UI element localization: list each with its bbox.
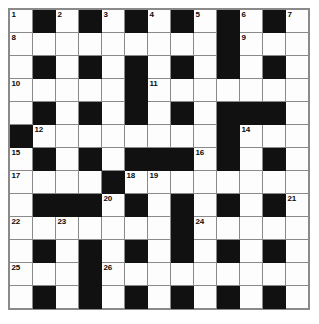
crossword-entry-cell[interactable] <box>240 194 263 217</box>
crossword-entry-cell[interactable] <box>102 286 125 309</box>
crossword-entry-cell[interactable] <box>33 33 56 56</box>
crossword-entry-cell[interactable] <box>10 286 33 309</box>
crossword-entry-cell[interactable] <box>286 286 309 309</box>
crossword-entry-cell[interactable] <box>194 56 217 79</box>
crossword-entry-cell[interactable] <box>33 217 56 240</box>
crossword-entry-cell[interactable]: 3 <box>102 10 125 33</box>
crossword-entry-cell[interactable] <box>33 171 56 194</box>
crossword-entry-cell[interactable] <box>240 79 263 102</box>
crossword-entry-cell[interactable] <box>263 263 286 286</box>
crossword-entry-cell[interactable]: 4 <box>148 10 171 33</box>
crossword-entry-cell[interactable] <box>171 125 194 148</box>
crossword-entry-cell[interactable]: 25 <box>10 263 33 286</box>
crossword-entry-cell[interactable] <box>194 102 217 125</box>
crossword-entry-cell[interactable] <box>240 286 263 309</box>
crossword-entry-cell[interactable] <box>240 217 263 240</box>
crossword-entry-cell[interactable]: 15 <box>10 148 33 171</box>
crossword-entry-cell[interactable] <box>148 194 171 217</box>
crossword-entry-cell[interactable] <box>148 217 171 240</box>
crossword-entry-cell[interactable] <box>33 263 56 286</box>
crossword-entry-cell[interactable] <box>194 194 217 217</box>
crossword-entry-cell[interactable] <box>263 33 286 56</box>
crossword-entry-cell[interactable] <box>263 217 286 240</box>
crossword-entry-cell[interactable] <box>194 240 217 263</box>
crossword-entry-cell[interactable] <box>171 79 194 102</box>
crossword-entry-cell[interactable] <box>56 171 79 194</box>
crossword-entry-cell[interactable] <box>102 240 125 263</box>
crossword-entry-cell[interactable]: 20 <box>102 194 125 217</box>
crossword-entry-cell[interactable] <box>286 102 309 125</box>
crossword-entry-cell[interactable]: 10 <box>10 79 33 102</box>
crossword-entry-cell[interactable] <box>217 171 240 194</box>
crossword-entry-cell[interactable] <box>148 56 171 79</box>
crossword-entry-cell[interactable] <box>194 125 217 148</box>
crossword-entry-cell[interactable] <box>148 102 171 125</box>
crossword-entry-cell[interactable]: 11 <box>148 79 171 102</box>
crossword-entry-cell[interactable] <box>194 286 217 309</box>
crossword-entry-cell[interactable] <box>102 33 125 56</box>
crossword-entry-cell[interactable]: 17 <box>10 171 33 194</box>
crossword-entry-cell[interactable] <box>286 217 309 240</box>
crossword-entry-cell[interactable] <box>56 263 79 286</box>
crossword-entry-cell[interactable] <box>240 263 263 286</box>
crossword-entry-cell[interactable] <box>102 79 125 102</box>
crossword-grid[interactable]: 1234567891011121415161718192021222324252… <box>9 9 309 309</box>
crossword-entry-cell[interactable] <box>217 79 240 102</box>
crossword-entry-cell[interactable] <box>286 240 309 263</box>
crossword-entry-cell[interactable]: 14 <box>240 125 263 148</box>
crossword-entry-cell[interactable] <box>56 286 79 309</box>
crossword-entry-cell[interactable] <box>194 79 217 102</box>
crossword-entry-cell[interactable] <box>102 217 125 240</box>
crossword-entry-cell[interactable] <box>79 79 102 102</box>
crossword-entry-cell[interactable] <box>79 33 102 56</box>
crossword-entry-cell[interactable] <box>56 56 79 79</box>
crossword-entry-cell[interactable]: 8 <box>10 33 33 56</box>
crossword-entry-cell[interactable]: 2 <box>56 10 79 33</box>
crossword-entry-cell[interactable] <box>286 148 309 171</box>
crossword-entry-cell[interactable]: 16 <box>194 148 217 171</box>
crossword-entry-cell[interactable] <box>33 79 56 102</box>
crossword-entry-cell[interactable] <box>10 56 33 79</box>
crossword-entry-cell[interactable] <box>148 286 171 309</box>
crossword-entry-cell[interactable] <box>286 33 309 56</box>
crossword-entry-cell[interactable] <box>194 263 217 286</box>
crossword-entry-cell[interactable] <box>79 125 102 148</box>
crossword-entry-cell[interactable] <box>125 33 148 56</box>
crossword-entry-cell[interactable] <box>194 171 217 194</box>
crossword-entry-cell[interactable] <box>171 263 194 286</box>
crossword-entry-cell[interactable] <box>102 56 125 79</box>
crossword-entry-cell[interactable] <box>10 102 33 125</box>
crossword-entry-cell[interactable] <box>240 171 263 194</box>
crossword-entry-cell[interactable]: 12 <box>33 125 56 148</box>
crossword-entry-cell[interactable] <box>102 102 125 125</box>
crossword-entry-cell[interactable] <box>79 217 102 240</box>
crossword-entry-cell[interactable] <box>263 79 286 102</box>
crossword-entry-cell[interactable] <box>125 263 148 286</box>
crossword-entry-cell[interactable]: 6 <box>240 10 263 33</box>
crossword-entry-cell[interactable] <box>56 102 79 125</box>
crossword-entry-cell[interactable]: 22 <box>10 217 33 240</box>
crossword-entry-cell[interactable]: 7 <box>286 10 309 33</box>
crossword-entry-cell[interactable]: 1 <box>10 10 33 33</box>
crossword-entry-cell[interactable] <box>263 125 286 148</box>
crossword-entry-cell[interactable]: 5 <box>194 10 217 33</box>
crossword-entry-cell[interactable]: 21 <box>286 194 309 217</box>
crossword-entry-cell[interactable] <box>171 33 194 56</box>
crossword-entry-cell[interactable] <box>102 148 125 171</box>
crossword-entry-cell[interactable] <box>148 125 171 148</box>
crossword-entry-cell[interactable] <box>10 240 33 263</box>
crossword-entry-cell[interactable]: 9 <box>240 33 263 56</box>
crossword-entry-cell[interactable] <box>56 33 79 56</box>
crossword-entry-cell[interactable] <box>240 56 263 79</box>
crossword-entry-cell[interactable]: 23 <box>56 217 79 240</box>
crossword-entry-cell[interactable] <box>10 194 33 217</box>
crossword-entry-cell[interactable] <box>217 263 240 286</box>
crossword-entry-cell[interactable] <box>56 79 79 102</box>
crossword-entry-cell[interactable]: 18 <box>125 171 148 194</box>
crossword-entry-cell[interactable] <box>56 240 79 263</box>
crossword-entry-cell[interactable] <box>79 171 102 194</box>
crossword-entry-cell[interactable] <box>56 125 79 148</box>
crossword-entry-cell[interactable] <box>148 263 171 286</box>
crossword-entry-cell[interactable] <box>171 171 194 194</box>
crossword-entry-cell[interactable] <box>286 125 309 148</box>
